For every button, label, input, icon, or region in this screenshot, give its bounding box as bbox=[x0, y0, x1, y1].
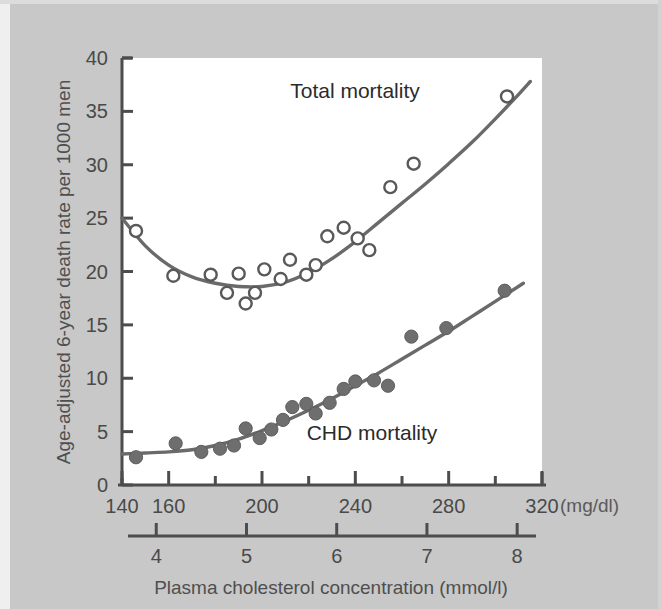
chd-mortality-point bbox=[195, 445, 208, 458]
chd-mortality-point bbox=[405, 330, 418, 343]
y-tick-label: 20 bbox=[86, 261, 108, 283]
y-tick-label: 25 bbox=[86, 207, 108, 229]
chd-mortality-label: CHD mortality bbox=[307, 421, 438, 444]
total-mortality-point bbox=[310, 259, 322, 271]
total-mortality-point bbox=[240, 298, 252, 310]
chd-mortality-point bbox=[213, 442, 226, 455]
mortality-vs-cholesterol-chart: 0510152025303540 140160200240280320 4567… bbox=[0, 0, 662, 609]
total-mortality-point bbox=[167, 270, 179, 282]
y-tick-label: 15 bbox=[86, 314, 108, 336]
total-mortality-point bbox=[321, 230, 333, 242]
chd-mortality-point bbox=[381, 379, 394, 392]
x-tick-label: 280 bbox=[432, 495, 465, 517]
chd-mortality-point bbox=[498, 284, 511, 297]
y-tick-label: 0 bbox=[97, 474, 108, 496]
chd-mortality-point bbox=[129, 451, 142, 464]
chd-mortality-point bbox=[169, 437, 182, 450]
chd-mortality-point bbox=[239, 422, 252, 435]
total-mortality-point bbox=[501, 90, 513, 102]
x-tick-label: 320 bbox=[525, 495, 558, 517]
y-tick-label: 5 bbox=[97, 421, 108, 443]
total-mortality-point bbox=[338, 222, 350, 234]
chd-mortality-point bbox=[227, 439, 240, 452]
chd-mortality-point bbox=[286, 400, 299, 413]
chd-mortality-point bbox=[323, 396, 336, 409]
chd-mortality-point bbox=[265, 423, 278, 436]
chd-mortality-point bbox=[276, 413, 289, 426]
y-tick-label: 40 bbox=[86, 47, 108, 69]
chd-mortality-point bbox=[309, 407, 322, 420]
mmol-tick-label: 8 bbox=[512, 545, 523, 567]
total-mortality-label: Total mortality bbox=[290, 79, 420, 102]
total-mortality-point bbox=[205, 269, 217, 281]
mmol-tick-label: 6 bbox=[331, 545, 342, 567]
x-axis-mmol-ticks bbox=[156, 523, 517, 536]
chd-mortality-point bbox=[440, 321, 453, 334]
chd-mortality-point bbox=[337, 382, 350, 395]
mmol-tick-label: 7 bbox=[421, 545, 432, 567]
total-mortality-point bbox=[408, 158, 420, 170]
y-axis-tick-labels: 0510152025303540 bbox=[86, 47, 108, 496]
total-mortality-point bbox=[363, 244, 375, 256]
total-mortality-point bbox=[384, 181, 396, 193]
chart-plot-wrapper: 0510152025303540 140160200240280320 4567… bbox=[0, 0, 662, 609]
x-axis-mmol-tick-labels: 45678 bbox=[151, 545, 523, 567]
mgdl-unit-label: (mg/dl) bbox=[560, 495, 619, 516]
figure-container: 0510152025303540 140160200240280320 4567… bbox=[0, 0, 662, 609]
total-mortality-point bbox=[221, 287, 233, 299]
mmol-tick-label: 5 bbox=[241, 545, 252, 567]
y-tick-label: 10 bbox=[86, 367, 108, 389]
chd-mortality-point bbox=[349, 375, 362, 388]
y-tick-label: 30 bbox=[86, 154, 108, 176]
y-tick-label: 35 bbox=[86, 100, 108, 122]
total-mortality-point bbox=[284, 254, 296, 266]
total-mortality-point bbox=[275, 273, 287, 285]
total-mortality-point bbox=[249, 287, 261, 299]
x-tick-label: 140 bbox=[105, 495, 138, 517]
x-tick-label: 160 bbox=[152, 495, 185, 517]
y-axis-title: Age-adjusted 6-year death rate per 1000 … bbox=[53, 80, 74, 464]
x-axis-title: Plasma cholesterol concentration (mmol/l… bbox=[154, 577, 508, 598]
total-mortality-point bbox=[258, 263, 270, 275]
total-mortality-point bbox=[130, 225, 142, 237]
chd-mortality-point bbox=[367, 374, 380, 387]
total-mortality-point bbox=[352, 232, 364, 244]
total-mortality-point bbox=[233, 268, 245, 280]
mmol-tick-label: 4 bbox=[151, 545, 162, 567]
chd-mortality-point bbox=[253, 431, 266, 444]
x-tick-label: 240 bbox=[339, 495, 372, 517]
x-tick-label: 200 bbox=[245, 495, 278, 517]
x-axis-mgdl-tick-labels: 140160200240280320 bbox=[105, 495, 558, 517]
total-mortality-point bbox=[300, 269, 312, 281]
